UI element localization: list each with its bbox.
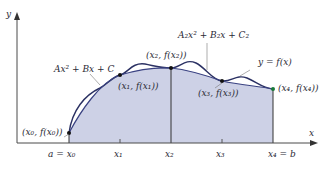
annotation-parabola1: Ax² + Bx + C	[54, 65, 114, 74]
y-axis-label: y	[6, 10, 11, 19]
point-label-x4: (x₄, f(x₄))	[278, 84, 318, 93]
point-x4	[271, 87, 275, 91]
leader-function	[240, 70, 250, 76]
y-axis-arrow-icon	[14, 12, 20, 20]
point-label-x1: (x₁, f(x₁))	[118, 82, 158, 91]
tick-label-x4: x₄ = b	[268, 150, 296, 159]
annotation-parabola2: A₂x² + B₂x + C₂	[178, 31, 249, 40]
leader-x0	[64, 134, 69, 137]
point-x2	[169, 66, 173, 70]
tick-label-x0: a = x₀	[48, 150, 75, 159]
point-x3	[220, 79, 224, 83]
x-axis-arrow-icon	[310, 140, 318, 146]
tick-label-x1: x₁	[114, 150, 123, 159]
tick-label-x3: x₃	[216, 150, 225, 159]
tick-label-x2: x₂	[165, 150, 174, 159]
point-x1	[118, 73, 122, 77]
point-x0	[67, 131, 71, 135]
point-label-x3: (x₃, f(x₃))	[198, 89, 238, 98]
point-label-x0: (x₀, f(x₀))	[22, 128, 62, 137]
x-axis-label: x	[309, 129, 314, 138]
leader-parabola1	[90, 74, 100, 85]
point-label-x2: (x₂, f(x₂))	[146, 51, 186, 60]
annotation-function: y = f(x)	[258, 58, 292, 67]
